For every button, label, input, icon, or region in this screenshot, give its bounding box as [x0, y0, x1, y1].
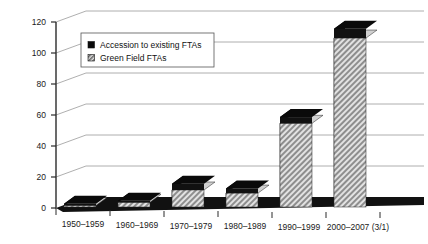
x-tick-1970-1979: 1970–1979 — [170, 221, 213, 231]
x-tick-1980-1989: 1980–1989 — [224, 221, 267, 231]
chart-container: 120 100 80 60 40 20 0 — [0, 0, 428, 244]
legend-label-green-field: Green Field FTAs — [100, 53, 166, 63]
legend-swatch-accession — [88, 42, 95, 49]
y-tick-0: 0 — [41, 203, 46, 213]
x-tick-2000-2007: 2000–2007 (3/1) — [327, 222, 390, 232]
x-tick-1990-1999: 1990–1999 — [278, 222, 321, 232]
y-tick-120: 120 — [32, 17, 46, 27]
legend-label-accession: Accession to existing FTAs — [100, 40, 201, 50]
bar-chart: 120 100 80 60 40 20 0 — [0, 0, 428, 244]
y-tick-100: 100 — [32, 48, 46, 58]
chart-legend: Accession to existing FTAs Green Field F… — [81, 33, 214, 67]
legend-swatch-green-field — [88, 55, 95, 62]
y-tick-20: 20 — [37, 172, 47, 182]
x-tick-1960-1969: 1960–1969 — [116, 220, 159, 230]
y-tick-60: 60 — [37, 110, 47, 120]
y-tick-80: 80 — [37, 79, 47, 89]
x-tick-1950-1959: 1950–1959 — [62, 219, 105, 229]
y-tick-40: 40 — [37, 141, 47, 151]
